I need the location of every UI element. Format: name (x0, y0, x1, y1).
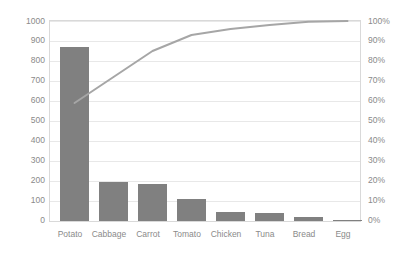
gridline (50, 41, 360, 42)
gridline (50, 81, 360, 82)
y-axis-left-tick: 0 (5, 216, 45, 225)
y-axis-left-tick: 1000 (5, 17, 45, 26)
x-axis-label-egg: Egg (317, 230, 369, 239)
gridline (50, 161, 360, 162)
bar-chicken (216, 212, 245, 221)
gridline (50, 101, 360, 102)
y-axis-left-tick: 500 (5, 116, 45, 125)
cumulative-line-svg (50, 21, 362, 223)
bar-tomato (177, 199, 206, 221)
pareto-chart: 1000 900 800 700 600 500 400 300 200 100… (0, 0, 412, 253)
y-axis-left-tick: 800 (5, 56, 45, 65)
y-axis-right-tick: 10% (368, 196, 408, 205)
y-axis-right-tick: 40% (368, 136, 408, 145)
y-axis-right-tick: 30% (368, 156, 408, 165)
y-axis-left-tick: 100 (5, 196, 45, 205)
y-axis-right-tick: 100% (368, 17, 408, 26)
y-axis-right-tick: 20% (368, 176, 408, 185)
y-axis-left-tick: 900 (5, 36, 45, 45)
bar-carrot (138, 184, 167, 221)
cumulative-percent-line (75, 21, 348, 103)
y-axis-right-tick: 0% (368, 216, 408, 225)
bar-tuna (255, 213, 284, 221)
plot-area (49, 20, 361, 222)
y-axis-left-tick: 200 (5, 176, 45, 185)
y-axis-left-tick: 600 (5, 96, 45, 105)
y-axis-right-tick: 60% (368, 96, 408, 105)
bar-cabbage (99, 182, 128, 221)
bar-bread (294, 217, 323, 221)
gridline (50, 141, 360, 142)
y-axis-right-tick: 90% (368, 36, 408, 45)
gridline (50, 61, 360, 62)
y-axis-right-tick: 70% (368, 76, 408, 85)
y-axis-left-tick: 700 (5, 76, 45, 85)
bar-potato (60, 47, 89, 221)
y-axis-left-tick: 300 (5, 156, 45, 165)
y-axis-left-tick: 400 (5, 136, 45, 145)
gridline (50, 21, 360, 22)
gridline (50, 181, 360, 182)
bar-egg (333, 220, 362, 221)
y-axis-right-tick: 50% (368, 116, 408, 125)
gridline (50, 121, 360, 122)
y-axis-right-tick: 80% (368, 56, 408, 65)
